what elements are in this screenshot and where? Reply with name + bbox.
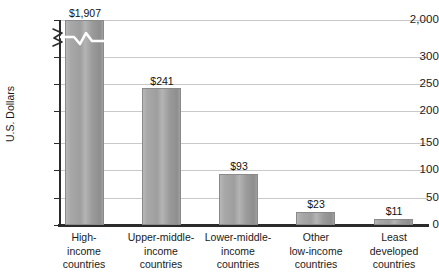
gridline-2000: [60, 20, 428, 21]
category-line-3: countries: [353, 258, 435, 272]
category-line-1: Upper-middle-: [118, 231, 204, 245]
category-line-3: countries: [195, 258, 281, 272]
category-label-upper-middle-income: Upper-middle- income countries: [118, 231, 204, 272]
category-line-2: income: [118, 245, 204, 259]
y-tick-100: [54, 170, 60, 171]
category-label-least-developed: Least developed countries: [353, 231, 435, 272]
y-tick-200: [54, 111, 60, 112]
bar-value-other-low-income: $23: [286, 199, 346, 210]
category-label-high-income: High- income countries: [44, 231, 124, 272]
bar-upper-middle-income: [142, 88, 181, 225]
y-tick-300: [54, 57, 60, 58]
y-tick-label-2000: 2,000: [393, 14, 439, 26]
y-tick-50: [54, 198, 60, 199]
gridline-200: [60, 111, 428, 112]
y-tick-250: [54, 84, 60, 85]
bar-value-upper-middle-income: $241: [132, 76, 192, 87]
bar-lower-middle-income: [219, 174, 258, 225]
category-label-other-low-income: Other low-income countries: [275, 231, 357, 272]
category-line-2: income: [195, 245, 281, 259]
y-tick-150: [54, 143, 60, 144]
category-line-2: developed: [353, 245, 435, 259]
category-line-3: countries: [44, 258, 124, 272]
category-line-2: low-income: [275, 245, 357, 259]
y-tick-2000: [54, 20, 60, 21]
y-tick-label-250: 250: [393, 78, 439, 90]
category-line-1: Lower-middle-: [195, 231, 281, 245]
gridline-250: [60, 84, 428, 85]
y-tick-label-100: 100: [393, 164, 439, 176]
category-line-1: Least: [353, 231, 435, 245]
bar-least-developed: [374, 219, 413, 225]
category-line-3: countries: [275, 258, 357, 272]
bar-value-least-developed: $11: [364, 206, 424, 217]
category-line-1: Other: [275, 231, 357, 245]
category-line-1: High-: [44, 231, 124, 245]
gridline-150: [60, 143, 428, 144]
y-tick-0: [54, 225, 60, 226]
y-axis-title: U.S. Dollars: [4, 74, 16, 154]
bar-other-low-income: [296, 212, 335, 225]
gridline-300: [60, 57, 428, 58]
category-line-2: income: [44, 245, 124, 259]
y-tick-label-50: 50: [393, 192, 439, 204]
y-tick-label-150: 150: [393, 137, 439, 149]
y-tick-label-200: 200: [393, 105, 439, 117]
y-axis-line: [59, 20, 61, 225]
bar-high-income: [65, 20, 104, 225]
category-line-3: countries: [118, 258, 204, 272]
bar-chart: 2,000 300 250 200 150 100 50 0 U.S. Doll…: [0, 0, 439, 277]
bar-value-high-income: $1,907: [55, 8, 115, 19]
bar-value-lower-middle-income: $93: [209, 161, 269, 172]
category-label-lower-middle-income: Lower-middle- income countries: [195, 231, 281, 272]
y-tick-label-300: 300: [393, 51, 439, 63]
